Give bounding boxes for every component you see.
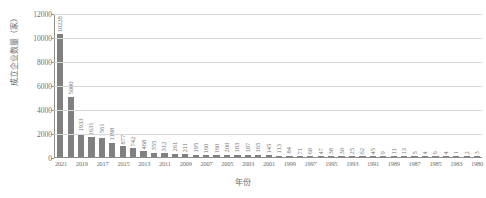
bar: 183 [234,155,240,157]
bar-value-label: 13 [401,148,408,155]
y-tick-label: 2000 [37,130,52,139]
bar-value-label: 10228 [57,16,64,32]
bar: 1561 [99,138,105,157]
bar: 9 [380,156,386,157]
bar-value-label: 165 [255,143,262,153]
x-tick-label: 2009 [180,160,192,172]
bar: 160 [203,155,209,157]
bar: 84 [286,156,292,157]
bar: 4 [443,156,449,157]
bar: 2 [464,156,470,157]
x-tick-label [275,160,284,172]
y-tick-mark [51,86,54,87]
y-tick-mark [51,158,54,159]
bar: 355 [151,153,157,157]
bar-value-label: 9 [380,151,387,154]
x-tick-label [296,160,305,172]
x-tick-label: 2021 [55,160,67,172]
bar: 742 [130,148,136,157]
gridline [54,14,482,15]
x-tick-label: 2015 [117,160,129,172]
x-tick-label: 2017 [97,160,109,172]
x-tick-label [150,160,159,172]
bar-value-label: 468 [140,140,147,150]
bar-value-label: 4 [422,151,429,154]
x-tick-label: 2019 [76,160,88,172]
gridline [54,86,482,87]
x-tick-label [109,160,118,172]
x-tick-label [192,160,201,172]
bar: 1198 [109,143,115,157]
bar-value-label: 1933 [78,119,85,132]
x-axis-tick-labels: 2021201920172015201320112009200720052003… [55,160,483,172]
bar: 3 [474,156,480,157]
bar: 187 [245,155,251,157]
bar-value-label: 5000 [67,82,74,95]
bar-value-label: 84 [286,147,293,154]
bar-value-label: 5 [411,151,418,154]
gridline [54,134,482,135]
x-tick-label [88,160,97,172]
bar: 200 [224,155,230,157]
x-tick-label: 2007 [200,160,212,172]
bar: 1933 [78,134,84,157]
x-tick-label: 1999 [284,160,296,172]
bar-value-label: 187 [244,143,251,153]
y-tick-mark [51,38,54,39]
x-tick-label: 1985 [429,160,441,172]
bar-value-label: 145 [265,143,272,153]
bar-value-label: 200 [224,143,231,153]
x-tick-label [462,160,471,172]
x-tick-label: 1987 [409,160,421,172]
bar: 261 [172,154,178,157]
bar: 165 [255,155,261,157]
x-tick-label: 1991 [367,160,379,172]
bar-value-label: 113 [276,144,283,154]
bar-value-label: 47 [317,148,324,155]
bar: 5 [411,156,417,157]
x-tick-label: 1980 [471,160,483,172]
bar: 113 [276,156,282,157]
bar: 45 [370,156,376,157]
bar-value-label: 6 [432,151,439,154]
y-tick-label: 12000 [33,10,52,19]
bar: 468 [140,151,146,157]
bar-value-label: 261 [171,142,178,152]
y-tick-label: 8000 [37,58,52,67]
bar-value-label: 30 [338,148,345,155]
bar: 11 [391,156,397,157]
bar: 30 [338,156,344,157]
y-tick-mark [51,110,54,111]
y-axis-tick-labels: 020004000600080001000012000 [14,10,52,158]
y-tick-mark [51,134,54,135]
y-tick-mark [51,62,54,63]
x-tick-label: 2013 [138,160,150,172]
bar-value-label: 160 [213,143,220,153]
bar-value-label: 38 [328,148,335,155]
bar: 13 [401,156,407,157]
x-tick-label: 2011 [159,160,171,172]
x-tick-label: 1983 [450,160,462,172]
x-tick-label [254,160,263,172]
x-tick-label [337,160,346,172]
bar-value-label: 71 [297,148,304,155]
y-tick-label: 6000 [37,82,52,91]
x-tick-label: 2003 [242,160,254,172]
bar: 5000 [68,97,74,157]
x-tick-label [421,160,430,172]
bar-value-label: 1 [453,151,460,154]
x-tick-label [212,160,221,172]
bar-chart: 成立企业数量（家） 020004000600080001000012000 10… [0,0,486,198]
x-tick-label [441,160,450,172]
x-tick-label [67,160,76,172]
x-tick-label: 1993 [346,160,358,172]
bar-value-label: 742 [130,136,137,146]
bar-value-label: 4 [442,151,449,154]
bar-value-label: 62 [359,148,366,155]
bar-value-label: 68 [307,148,314,155]
y-tick-label: 4000 [37,106,52,115]
bar-value-label: 195 [192,143,199,153]
bar-value-label: 3 [474,151,481,154]
gridline [54,110,482,111]
x-tick-label: 1997 [305,160,317,172]
